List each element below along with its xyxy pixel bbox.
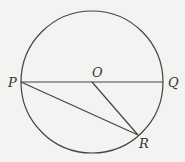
circle-diagram: P O Q R: [0, 0, 185, 162]
radius-or: [92, 82, 138, 135]
label-r: R: [138, 136, 149, 151]
chord-pr: [21, 82, 138, 135]
label-o: O: [92, 65, 103, 80]
label-p: P: [7, 75, 17, 90]
label-q: Q: [168, 75, 179, 90]
